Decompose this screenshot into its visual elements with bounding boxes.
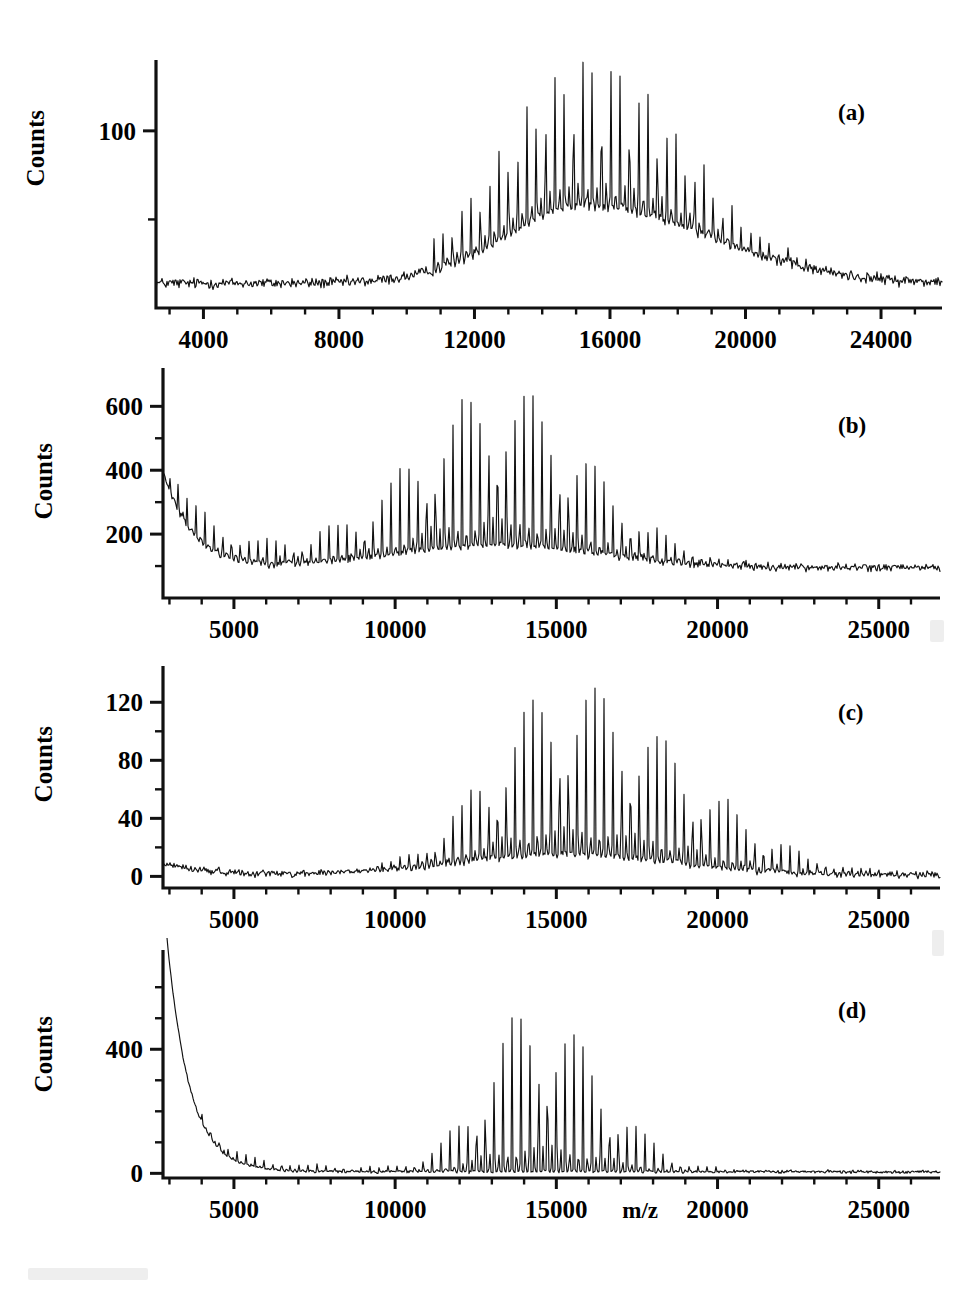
svg-c-xtick-label: 15000 xyxy=(525,906,588,933)
panel-a-label: (a) xyxy=(838,100,865,126)
scan-artifact-right-b xyxy=(930,620,944,642)
svg-b-xtick-label: 25000 xyxy=(847,616,910,643)
svg-b-xtick-label: 20000 xyxy=(686,616,749,643)
svg-b-xtick-label: 10000 xyxy=(364,616,427,643)
panel-b-label: (b) xyxy=(838,413,866,439)
svg-a-xtick-label: 24000 xyxy=(850,326,913,353)
panel-c-y-axis-title: Counts xyxy=(30,726,58,802)
svg-c-xtick-label: 10000 xyxy=(364,906,427,933)
svg-c-ytick-label: 0 xyxy=(131,863,144,890)
svg-d-xtick-label: 10000 xyxy=(364,1196,427,1223)
panel-c: Counts (c) 50001000015000200002500012080… xyxy=(0,648,959,938)
svg-c-xtick-label: 5000 xyxy=(209,906,259,933)
panel-b-y-axis-title: Counts xyxy=(30,443,58,519)
panel-a-plot: 4000800012000160002000024000100 xyxy=(0,0,959,358)
panel-b: Counts (b) 50001000015000200002500060040… xyxy=(0,358,959,648)
svg-a-xtick-label: 8000 xyxy=(314,326,364,353)
svg-d-x-axis-title: m/z xyxy=(622,1198,658,1223)
svg-c-ytick-label: 80 xyxy=(118,747,143,774)
svg-a-xtick-label: 20000 xyxy=(714,326,777,353)
svg-c-xtick-label: 25000 xyxy=(847,906,910,933)
svg-c-xtick-label: 20000 xyxy=(686,906,749,933)
panel-d-plot: 5000100001500020000250004000m/z xyxy=(0,938,959,1238)
panel-c-label: (c) xyxy=(838,700,864,726)
svg-d-ytick-label: 400 xyxy=(106,1036,144,1063)
svg-d-xtick-label: 15000 xyxy=(525,1196,588,1223)
svg-d-xtick-label: 20000 xyxy=(686,1196,749,1223)
svg-a-xtick-label: 16000 xyxy=(579,326,642,353)
panel-a-y-axis-title: Counts xyxy=(22,110,50,186)
panel-d-label: (d) xyxy=(838,998,866,1024)
svg-b-xtick-label: 5000 xyxy=(209,616,259,643)
svg-b-ytick-label: 400 xyxy=(106,457,144,484)
svg-b-ytick-label: 600 xyxy=(106,393,144,420)
svg-b-xtick-label: 15000 xyxy=(525,616,588,643)
svg-d-xtick-label: 5000 xyxy=(209,1196,259,1223)
panel-d: Counts (d) 5000100001500020000250004000m… xyxy=(0,938,959,1238)
svg-d-xtick-label: 25000 xyxy=(847,1196,910,1223)
svg-d-ytick-label: 0 xyxy=(131,1160,144,1187)
panel-a: Counts (a) 40008000120001600020000240001… xyxy=(0,0,959,358)
svg-c-ytick-label: 120 xyxy=(106,689,144,716)
svg-b-ytick-label: 200 xyxy=(106,521,144,548)
panel-b-plot: 500010000150002000025000600400200 xyxy=(0,358,959,648)
panel-d-y-axis-title: Counts xyxy=(30,1016,58,1092)
svg-a-ytick-label: 100 xyxy=(99,118,137,145)
scan-artifact-right-d xyxy=(932,930,944,956)
mass-spectra-figure: Counts (a) 40008000120001600020000240001… xyxy=(0,0,959,1293)
panel-c-plot: 50001000015000200002500012080400 xyxy=(0,648,959,938)
scan-artifact-bottom-left xyxy=(28,1268,148,1280)
svg-c-ytick-label: 40 xyxy=(118,805,143,832)
svg-a-xtick-label: 12000 xyxy=(443,326,506,353)
svg-a-xtick-label: 4000 xyxy=(178,326,228,353)
